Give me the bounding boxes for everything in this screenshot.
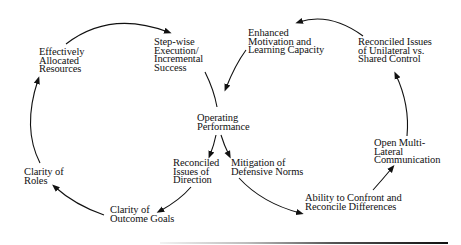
bottom-rule-divider: [160, 242, 448, 244]
node-open-multi-lateral-communication: Open Multi- Lateral Communication: [374, 139, 440, 165]
arrow-roles-to-resources: [30, 80, 40, 163]
node-operating-performance: Operating Performance: [197, 114, 250, 131]
arrow-mitigation-to-ability: [239, 178, 300, 213]
arrow-operating-to-direction: [210, 135, 216, 155]
node-reconciled-issues-of-direction: Reconciled Issues of Direction: [173, 159, 219, 185]
node-reconciled-issues-unilateral-shared: Reconciled Issues of Unilateral vs. Shar…: [358, 38, 432, 64]
node-clarity-of-outcome-goals: Clarity of Outcome Goals: [110, 206, 174, 223]
node-ability-to-confront: Ability to Confront and Reconcile Differ…: [305, 194, 402, 211]
arrow-outcome-to-roles: [55, 187, 104, 215]
node-effectively-allocated-resources: Effectively Allocated Resources: [39, 48, 84, 74]
node-mitigation-of-defensive-norms: Mitigation of Defensive Norms: [231, 159, 303, 176]
arrow-open-to-unilateral: [396, 75, 408, 136]
arrow-enhanced-to-operating: [226, 50, 246, 88]
cycle-diagram: Operating Performance Reconciled Issues …: [0, 0, 461, 245]
arrow-operating-to-mitigation: [221, 135, 229, 155]
arrow-stepwise-to-operating: [205, 72, 217, 107]
node-clarity-of-roles: Clarity of Roles: [24, 168, 64, 185]
arrow-resources-to-stepwise: [66, 23, 168, 44]
node-step-wise-execution: Step-wise Execution/ Incremental Success: [154, 38, 203, 72]
arrow-ability-to-open: [373, 168, 392, 190]
node-enhanced-motivation: Enhanced Motivation and Learning Capacit…: [248, 29, 324, 55]
